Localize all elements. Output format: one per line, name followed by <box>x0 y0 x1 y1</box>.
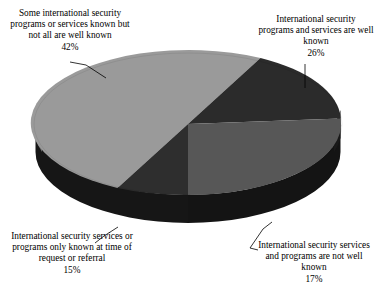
pie-label-slice-26-percent: 26% <box>258 48 374 59</box>
pie-label-slice-42: Some international security programs or … <box>6 8 134 53</box>
pie-label-slice-17: International security services and prog… <box>252 240 376 285</box>
pie-label-slice-17-text: International security services and prog… <box>258 240 370 272</box>
pie-label-slice-26-text: International security programs and serv… <box>258 14 373 46</box>
pie-label-slice-15-percent: 15% <box>8 265 136 276</box>
pie-label-slice-26: International security programs and serv… <box>258 14 374 59</box>
pie-label-slice-42-percent: 42% <box>6 42 134 53</box>
pie-chart: Some international security programs or … <box>0 0 377 302</box>
pie-label-slice-15: International security services or progr… <box>8 231 136 276</box>
pie-label-slice-17-percent: 17% <box>252 274 376 285</box>
pie-label-slice-15-text: International security services or progr… <box>11 231 133 263</box>
pie-label-slice-42-text: Some international security programs or … <box>10 8 129 40</box>
